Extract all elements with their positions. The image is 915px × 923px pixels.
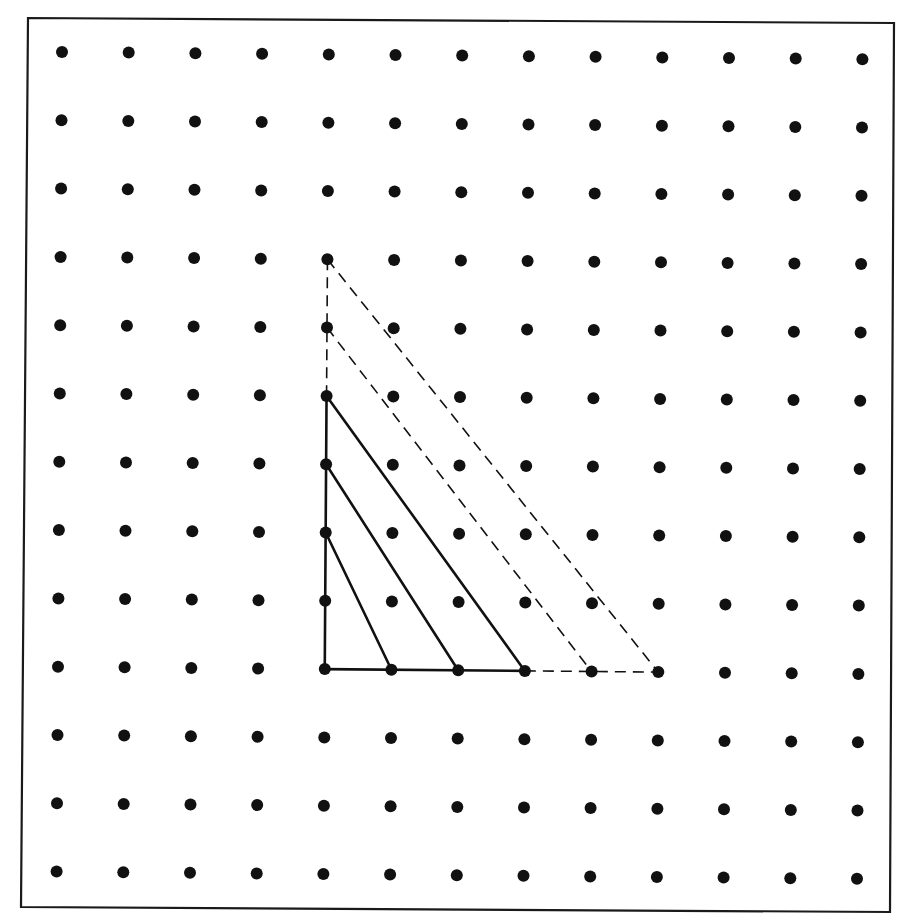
grid-peg-dot [723, 120, 735, 132]
grid-peg-dot [456, 50, 468, 62]
grid-peg-dot [854, 463, 866, 475]
grid-peg-dot [51, 866, 63, 878]
grid-peg-dot [321, 390, 333, 402]
grid-peg-dot [785, 804, 797, 816]
grid-peg-dot [721, 394, 733, 406]
grid-peg-dot [53, 456, 65, 468]
grid-peg-dot [789, 121, 801, 133]
grid-peg-dot [587, 461, 599, 473]
grid-peg-dot [720, 530, 732, 542]
grid-peg-dot [654, 461, 666, 473]
grid-peg-dot [718, 872, 730, 884]
grid-peg-dot [585, 734, 597, 746]
grid-peg-dot [856, 53, 868, 65]
grid-peg-dot [122, 183, 134, 195]
grid-peg-dot [651, 803, 663, 815]
grid-peg-dot [120, 525, 132, 537]
grid-peg-dot [452, 664, 464, 676]
grid-peg-dot [52, 592, 64, 604]
grid-peg-dot [656, 120, 668, 132]
triangle-segments [325, 259, 659, 672]
geoboard-diagram [0, 0, 915, 923]
grid-peg-dot [456, 118, 468, 130]
grid-peg-dot [788, 326, 800, 338]
grid-peg-dot [189, 47, 201, 59]
grid-peg-dot [786, 667, 798, 679]
grid-peg-dot [518, 733, 530, 745]
grid-peg-dot [322, 117, 334, 129]
grid-peg-dot [189, 116, 201, 128]
grid-peg-dot [185, 730, 197, 742]
grid-peg-dot [254, 321, 266, 333]
grid-peg-dot [786, 599, 798, 611]
grid-peg-dot [788, 394, 800, 406]
grid-peg-dot [188, 252, 200, 264]
grid-peg-dot [588, 324, 600, 336]
grid-peg-dot [854, 395, 866, 407]
grid-peg-dot [52, 661, 64, 673]
grid-peg-dot [120, 456, 132, 468]
grid-peg-dot [719, 667, 731, 679]
grid-peg-dot [655, 325, 667, 337]
grid-peg-dot [387, 459, 399, 471]
grid-peg-dot [318, 731, 330, 743]
grid-peg-dot [655, 188, 667, 200]
grid-peg-dot [187, 389, 199, 401]
grid-peg-dot [187, 457, 199, 469]
grid-peg-dot [188, 320, 200, 332]
grid-peg-dot [787, 531, 799, 543]
hypotenuse-solid-line [326, 464, 458, 670]
grid-peg-dot [119, 593, 131, 605]
grid-peg-dot [455, 186, 467, 198]
grid-peg-dot [120, 388, 132, 400]
grid-peg-dot [386, 527, 398, 539]
grid-peg-dot [590, 51, 602, 63]
grid-peg-dot [586, 666, 598, 678]
grid-peg-dot [323, 48, 335, 60]
grid-peg-dot [451, 869, 463, 881]
grid-peg-dot [55, 251, 67, 263]
grid-peg-dot [785, 736, 797, 748]
grid-peg-dot [589, 187, 601, 199]
hypotenuse-solid-line [327, 396, 525, 671]
grid-peg-dot [454, 459, 466, 471]
grid-peg-dot [254, 389, 266, 401]
grid-peg-dot [652, 734, 664, 746]
grid-peg-dot [385, 800, 397, 812]
grid-peg-dot [518, 870, 530, 882]
grid-peg-dot [321, 253, 333, 265]
grid-peg-dot [586, 597, 598, 609]
grid-peg-dot [853, 600, 865, 612]
grid-peg-dot [255, 253, 267, 265]
grid-peg-dot [185, 799, 197, 811]
grid-peg-dot [118, 798, 130, 810]
grid-peg-dot [321, 322, 333, 334]
grid-peg-dot [385, 664, 397, 676]
grid-peg-dot [186, 594, 198, 606]
grid-peg-dot [251, 799, 263, 811]
grid-peg-dot [587, 529, 599, 541]
grid-peg-dot [256, 48, 268, 60]
grid-peg-dot [389, 186, 401, 198]
grid-peg-dot [54, 319, 66, 331]
grid-peg-dot [117, 866, 129, 878]
grid-peg-dot [319, 595, 331, 607]
grid-peg-dot [519, 665, 531, 677]
grid-peg-dot [317, 868, 329, 880]
grid-peg-dot [452, 733, 464, 745]
grid-peg-dot [520, 460, 532, 472]
grid-peg-dot [852, 668, 864, 680]
grid-peg-dot [389, 117, 401, 129]
grid-peg-dot [122, 115, 134, 127]
grid-peg-dot [121, 252, 133, 264]
dot-grid [51, 46, 869, 885]
grid-peg-dot [523, 119, 535, 131]
grid-peg-dot [319, 663, 331, 675]
grid-peg-dot [53, 524, 65, 536]
grid-peg-dot [255, 184, 267, 196]
grid-peg-dot [119, 661, 131, 673]
grid-peg-dot [519, 597, 531, 609]
grid-peg-dot [588, 256, 600, 268]
grid-peg-dot [522, 187, 534, 199]
grid-peg-dot [454, 323, 466, 335]
